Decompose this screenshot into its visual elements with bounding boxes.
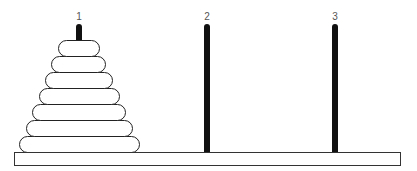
disk-2[interactable] xyxy=(51,56,106,73)
peg-label-3: 3 xyxy=(329,12,341,22)
base-board xyxy=(14,152,401,166)
disk-7[interactable] xyxy=(19,136,140,153)
disk-4[interactable] xyxy=(39,88,120,105)
peg-2[interactable] xyxy=(204,24,210,152)
peg-3[interactable] xyxy=(332,24,338,152)
peg-label-1: 1 xyxy=(73,12,85,22)
disk-6[interactable] xyxy=(26,120,133,137)
disk-1[interactable] xyxy=(58,40,100,57)
peg-label-2: 2 xyxy=(201,12,213,22)
disk-3[interactable] xyxy=(45,72,113,89)
disk-5[interactable] xyxy=(32,104,126,121)
